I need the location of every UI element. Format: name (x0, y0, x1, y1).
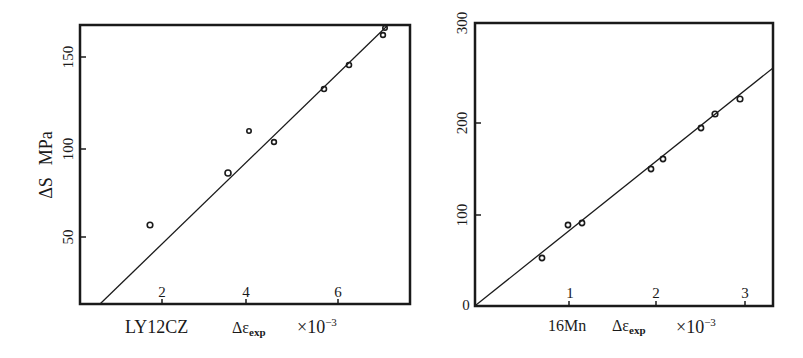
right-xlabel: Δεexp (612, 317, 646, 336)
data-point (660, 156, 665, 161)
left-xtick-label-6: 6 (334, 284, 342, 300)
data-point (698, 125, 703, 130)
right-ytick-label-100: 100 (454, 204, 470, 227)
data-point (272, 140, 277, 145)
left-xtick-label-4: 4 (242, 284, 250, 300)
right-xtick-label-3: 3 (741, 285, 749, 301)
right-fit-line (476, 68, 773, 305)
right-ytick-label-300: 300 (454, 12, 470, 35)
data-point (147, 222, 153, 228)
left-chart: 150 100 50 ΔSMPa 2 4 6 LY12CZ Δεexp ×10−… (36, 25, 410, 338)
right-xtick-label-2: 2 (652, 285, 660, 301)
data-point (347, 63, 352, 68)
left-ytick-label-50: 50 (60, 230, 76, 245)
data-point (565, 222, 570, 227)
right-plot-frame (475, 23, 773, 306)
data-point (225, 170, 231, 176)
data-point (648, 166, 653, 171)
left-ylabel: ΔSMPa (36, 131, 56, 199)
data-point (381, 33, 386, 38)
data-point (579, 220, 584, 225)
data-point (322, 87, 327, 92)
left-data-points (147, 26, 387, 228)
left-fit-line (100, 25, 388, 304)
left-ytick-label-150: 150 (60, 46, 76, 69)
right-material-label: 16Mn (548, 317, 586, 334)
left-xlabel-scale: ×10−3 (297, 316, 337, 337)
left-ytick-label-100: 100 (60, 138, 76, 161)
right-xtick-label-1: 1 (566, 285, 574, 301)
left-xtick-label-2: 2 (158, 284, 166, 300)
left-xlabel: Δεexp (232, 319, 266, 338)
data-point (247, 129, 251, 133)
right-ytick-label-0: 0 (462, 297, 470, 313)
right-ytick-label-200: 200 (454, 112, 470, 135)
data-point (737, 96, 743, 102)
data-point (539, 255, 544, 260)
right-xlabel-scale: ×10−3 (676, 316, 716, 337)
left-plot-frame (80, 25, 410, 304)
left-material-label: LY12CZ (125, 317, 188, 337)
right-chart: 300 200 100 0 1 2 3 16Mn Δεexp ×10−3 (454, 12, 773, 337)
right-data-points (539, 96, 742, 260)
